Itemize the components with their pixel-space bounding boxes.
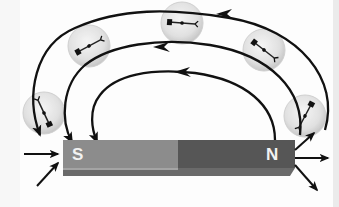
north-pole-label: N bbox=[266, 145, 278, 165]
compass-left-s bbox=[23, 92, 65, 134]
south-pole-label: S bbox=[72, 145, 83, 165]
bar-magnet bbox=[63, 140, 295, 176]
diagram-canvas: S N bbox=[0, 0, 339, 207]
magnetic-field-diagram bbox=[0, 0, 339, 207]
arrows-into-south bbox=[24, 154, 58, 186]
compass-top-center bbox=[161, 2, 203, 44]
compass-right-n bbox=[284, 95, 326, 137]
arrows-out-of-north bbox=[295, 133, 328, 190]
field-line-inner bbox=[92, 71, 275, 142]
